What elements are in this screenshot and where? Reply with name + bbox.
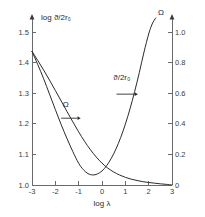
y-right-tick-label: 0.2 bbox=[175, 150, 185, 159]
x-tick-label: 1 bbox=[123, 187, 127, 196]
y-tick-label: 1.3 bbox=[19, 89, 29, 98]
x-tick-label: 2 bbox=[147, 187, 151, 196]
y-tick-label: 1.5 bbox=[19, 28, 29, 37]
y-axis-left-title: log ϑ/2r₀ bbox=[41, 13, 71, 22]
y-tick-label: 1.0 bbox=[19, 181, 29, 190]
x-tick-label: 0 bbox=[100, 187, 104, 196]
y-right-tick-label: 0.6 bbox=[175, 89, 185, 98]
annotation-theta-label: ϑ/2r₀ bbox=[113, 73, 130, 82]
y-right-tick-label: 0.4 bbox=[175, 119, 185, 128]
y-tick-label: 1.4 bbox=[19, 58, 29, 67]
annotation-omega-label: Ω bbox=[63, 100, 69, 109]
y-right-tick-label: 0 bbox=[175, 181, 179, 190]
x-tick-label: -1 bbox=[75, 187, 82, 196]
plot-canvas: 1.0 1.1 1.2 1.3 1.4 1.5 0 0.2 0.4 0.6 0.… bbox=[0, 0, 205, 217]
y-axis-right-title: Ω bbox=[158, 8, 164, 17]
x-tick-label: -2 bbox=[52, 187, 59, 196]
y-tick-label: 1.1 bbox=[19, 150, 29, 159]
x-axis-title: log λ bbox=[94, 199, 111, 208]
y-right-tick-label: 0.8 bbox=[175, 58, 185, 67]
x-tick-label: -3 bbox=[29, 187, 36, 196]
y-tick-label: 1.2 bbox=[19, 119, 29, 128]
y-right-tick-label: 1.0 bbox=[175, 28, 185, 37]
x-tick-label: 3 bbox=[170, 187, 174, 196]
chart-figure: 1.0 1.1 1.2 1.3 1.4 1.5 0 0.2 0.4 0.6 0.… bbox=[0, 0, 205, 217]
